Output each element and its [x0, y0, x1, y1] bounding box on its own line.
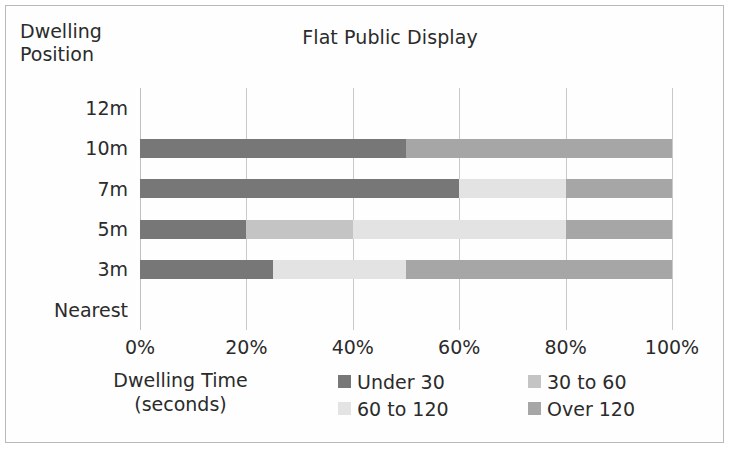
- legend-swatch-icon: [338, 375, 351, 388]
- bar-segment[interactable]: [566, 220, 672, 239]
- legend-label: 60 to 120: [357, 398, 449, 420]
- legend-swatch-icon: [338, 402, 351, 415]
- y-axis-tick-label: Nearest: [3, 290, 128, 330]
- x-axis-tick-label: 0%: [125, 336, 155, 358]
- bar-segment[interactable]: [406, 139, 672, 158]
- y-axis-tick-label: 5m: [3, 209, 128, 249]
- chart-row: 7m: [140, 169, 672, 209]
- plot-area: 12m10m7m5m3mNearest: [140, 88, 672, 330]
- chart-row: 3m: [140, 249, 672, 289]
- bar-segment[interactable]: [140, 260, 273, 279]
- legend-swatch-icon: [528, 402, 541, 415]
- chart-row: 5m: [140, 209, 672, 249]
- bar-segment[interactable]: [566, 179, 672, 198]
- y-axis-title-line2: Position: [20, 43, 140, 66]
- chart-row: 12m: [140, 88, 672, 128]
- legend-item[interactable]: Over 120: [528, 398, 690, 420]
- y-axis-tick-label: 3m: [3, 249, 128, 289]
- legend-label: Under 30: [357, 371, 445, 393]
- chart-figure: Dwelling Position Flat Public Display 12…: [0, 0, 729, 450]
- bar-segment[interactable]: [273, 260, 406, 279]
- bar-segment[interactable]: [459, 179, 565, 198]
- x-axis-tick-label: 20%: [225, 336, 267, 358]
- chart-title: Flat Public Display: [210, 26, 570, 48]
- bar-segment[interactable]: [406, 260, 672, 279]
- stacked-bar[interactable]: [140, 179, 672, 198]
- x-axis-tick-labels: 0%20%40%60%80%100%: [140, 336, 672, 362]
- chart-row: 10m: [140, 128, 672, 168]
- y-axis-tick-label: 10m: [3, 128, 128, 168]
- x-axis-tick-label: 40%: [332, 336, 374, 358]
- chart-legend: Under 3030 to 6060 to 120Over 120: [338, 368, 690, 422]
- x-axis-tick-label: 80%: [544, 336, 586, 358]
- bar-segment[interactable]: [246, 220, 352, 239]
- legend-swatch-icon: [528, 375, 541, 388]
- x-axis-tick-label: 60%: [438, 336, 480, 358]
- y-axis-title-line1: Dwelling: [20, 20, 102, 42]
- y-axis-tick-label: 7m: [3, 169, 128, 209]
- x-axis-tick-label: 100%: [645, 336, 699, 358]
- y-axis-title: Dwelling Position: [20, 20, 140, 66]
- bar-segment[interactable]: [353, 220, 566, 239]
- legend-label: Over 120: [547, 398, 635, 420]
- legend-label: 30 to 60: [547, 371, 627, 393]
- bar-segment[interactable]: [140, 220, 246, 239]
- x-axis-title: Dwelling Time (seconds): [48, 368, 313, 416]
- bar-segment[interactable]: [140, 179, 459, 198]
- stacked-bar[interactable]: [140, 260, 672, 279]
- y-axis-tick-label: 12m: [3, 88, 128, 128]
- stacked-bar[interactable]: [140, 220, 672, 239]
- legend-item[interactable]: 30 to 60: [528, 371, 690, 393]
- gridline: [672, 88, 673, 330]
- stacked-bar[interactable]: [140, 139, 672, 158]
- x-axis-title-line2: (seconds): [48, 392, 313, 416]
- x-axis-title-line1: Dwelling Time: [113, 369, 247, 391]
- legend-item[interactable]: 60 to 120: [338, 398, 528, 420]
- legend-item[interactable]: Under 30: [338, 371, 528, 393]
- bar-segment[interactable]: [140, 139, 406, 158]
- chart-row: Nearest: [140, 290, 672, 330]
